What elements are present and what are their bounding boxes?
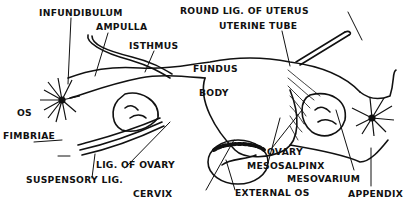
label-mesovarium: MESOVARIUM [287,174,360,184]
label-body: BODY [199,88,229,98]
label-ampulla: AMPULLA [96,22,147,32]
label-isthmus: ISTHMUS [129,41,178,51]
left-tube-lower-contour [70,76,205,98]
label-suspensory-lig: SUSPENSORY LIG. [26,175,123,185]
anatomy-diagram: INFUNDIBULUM AMPULLA ISTHMUS ROUND LIG. … [0,0,409,202]
left-ovary [113,93,158,131]
diagram-drawing [0,0,409,202]
left-fimbriae [40,78,80,122]
ligament-hatching [288,70,320,140]
label-ovary: OVARY [267,147,303,157]
right-round-ligament [296,32,349,65]
label-os: OS [17,108,32,118]
right-ovary [302,94,345,136]
label-appendix: APPENDIX [348,189,403,199]
label-fundus: FUNDUS [193,64,238,74]
label-uterine-tube: UTERINE TUBE [219,21,297,31]
label-lig-of-ovary: LIG. OF OVARY [96,160,175,170]
label-round-lig: ROUND LIG. OF UTERUS [180,6,309,16]
label-fimbriae: FIMBRIAE [3,131,55,141]
right-broad-ligament [290,140,388,162]
label-infundibulum: INFUNDIBULUM [39,8,123,18]
right-tube-end [360,70,396,99]
label-mesosalpinx: MESOSALPINX [247,161,325,171]
label-external-os: EXTERNAL OS [235,188,310,198]
label-cervix: CERVIX [133,189,173,199]
right-fimbriae [352,98,394,136]
